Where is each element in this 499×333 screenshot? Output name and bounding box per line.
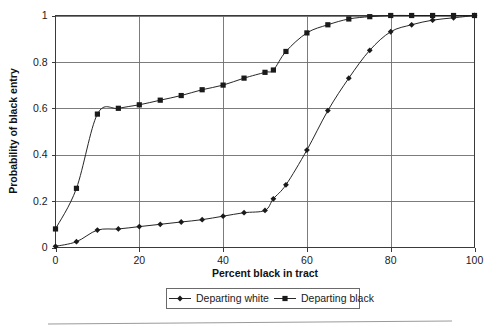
y-axis-tick-labels: 00.20.40.60.81 (33, 9, 48, 253)
y-tick-label: 0.6 (33, 102, 48, 114)
x-tick-label: 20 (133, 254, 145, 266)
data-point-marker (241, 76, 246, 81)
data-point-marker (241, 210, 247, 216)
data-point-marker (271, 67, 276, 72)
data-point-marker (115, 226, 121, 232)
x-tick-label: 100 (466, 254, 484, 266)
data-point-marker (178, 219, 184, 225)
x-axis-title: Percent black in tract (212, 267, 319, 279)
x-axis-tick-labels: 020406080100 (53, 254, 484, 266)
legend-sample-marker (282, 296, 287, 301)
data-point-marker (451, 13, 456, 18)
data-point-marker (74, 239, 80, 245)
data-point-marker (74, 186, 79, 191)
bottom-divider-rule (48, 321, 452, 324)
legend-item-label: Departing white (196, 292, 269, 304)
data-point-marker (304, 147, 310, 153)
data-point-marker (200, 87, 205, 92)
x-tick-label: 80 (385, 254, 397, 266)
data-point-marker (199, 217, 205, 223)
data-point-marker (95, 112, 100, 117)
chart-canvas: 020406080100 00.20.40.60.81 Percent blac… (0, 0, 499, 333)
y-axis-title: Probability of black entry (7, 68, 19, 194)
data-point-marker (158, 98, 163, 103)
data-point-marker (283, 49, 288, 54)
chart-figure: 020406080100 00.20.40.60.81 Percent blac… (0, 0, 499, 333)
axis-tickmarks (52, 17, 476, 252)
data-point-marker (157, 221, 163, 227)
data-point-marker (430, 17, 436, 23)
data-point-marker (346, 16, 351, 21)
data-point-marker (430, 13, 435, 18)
series-1 (53, 13, 478, 250)
y-tick-label: 0.8 (33, 56, 48, 68)
data-point-marker (136, 224, 142, 230)
data-point-marker (346, 75, 352, 81)
data-point-marker (262, 70, 267, 75)
data-point-marker (116, 106, 121, 111)
series-line (56, 15, 475, 229)
data-point-marker (304, 30, 309, 35)
data-point-marker (409, 22, 415, 28)
data-point-marker (137, 102, 142, 107)
x-tick-label: 0 (53, 254, 59, 266)
chart-legend: Departing whiteDeparting black (167, 289, 375, 309)
x-tick-label: 40 (217, 254, 229, 266)
y-tick-label: 0.2 (33, 195, 48, 207)
data-series-group (53, 13, 478, 250)
data-point-marker (388, 13, 393, 18)
y-tick-label: 0.4 (33, 148, 48, 160)
legend-item-label: Departing black (301, 292, 375, 304)
data-point-marker (409, 13, 414, 18)
data-point-marker (221, 83, 226, 88)
data-point-marker (472, 13, 477, 18)
y-tick-label: 1 (42, 9, 48, 21)
x-tick-label: 60 (301, 254, 313, 266)
data-point-marker (367, 14, 372, 19)
data-point-marker (388, 29, 394, 35)
data-point-marker (95, 227, 101, 233)
data-point-marker (53, 226, 58, 231)
y-tick-label: 0 (42, 241, 48, 253)
data-point-marker (179, 93, 184, 98)
data-point-marker (325, 22, 330, 27)
data-point-marker (220, 213, 226, 219)
series-2 (53, 13, 477, 232)
